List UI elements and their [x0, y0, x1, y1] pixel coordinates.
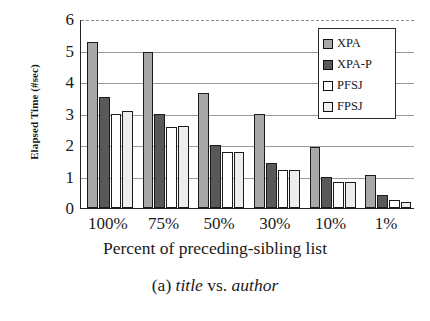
x-tick-label: 30% [247, 214, 303, 234]
caption-italic-title: title [176, 275, 203, 295]
bar [333, 182, 344, 208]
bar [210, 145, 221, 208]
bar [143, 52, 154, 208]
y-tick-label: 4 [48, 74, 74, 91]
x-tick-label: 10% [303, 214, 359, 234]
legend-item: XPA [323, 33, 395, 54]
caption-prefix: (a) [152, 275, 176, 295]
y-tick-label: 0 [48, 200, 74, 217]
bar-group [143, 20, 190, 208]
legend-swatch-icon [323, 39, 333, 49]
x-axis-tick-labels: 100%75%50%30%10%1% [80, 214, 414, 240]
legend-label: PFSJ [337, 79, 363, 92]
y-tick-label: 6 [48, 11, 74, 28]
x-tick-label: 75% [136, 214, 192, 234]
x-tick-label: 1% [358, 214, 414, 234]
bar [310, 147, 321, 208]
bar [278, 170, 289, 208]
bar [365, 175, 376, 208]
bar [321, 177, 332, 209]
bar [111, 114, 122, 209]
legend-label: FPSJ [337, 100, 363, 113]
bar [222, 152, 233, 208]
bar-group [87, 20, 134, 208]
legend-item: XPA-P [323, 54, 395, 75]
bar [266, 163, 277, 208]
y-axis-label: Elapsed Time (#sec) [28, 22, 40, 202]
legend-label: XPA-P [337, 58, 372, 71]
y-tick-label: 2 [48, 137, 74, 154]
legend-item: PFSJ [323, 75, 395, 96]
caption-italic-author: author [232, 275, 279, 295]
bar [87, 42, 98, 208]
bar-group [198, 20, 245, 208]
bar [377, 195, 388, 208]
figure-caption: (a) title vs. author [0, 275, 430, 296]
y-axis-tick-labels: 6543210 [44, 0, 74, 321]
legend-label: XPA [337, 37, 361, 50]
bar [154, 114, 165, 209]
x-tick-label: 100% [80, 214, 136, 234]
bar [166, 127, 177, 208]
bar [198, 93, 209, 208]
bar [289, 170, 300, 208]
bar-group [254, 20, 301, 208]
y-tick-label: 1 [48, 169, 74, 186]
legend-swatch-icon [323, 60, 333, 70]
bar [178, 126, 189, 208]
bar [99, 97, 110, 208]
bar [401, 202, 412, 208]
bar [254, 114, 265, 209]
bar [122, 111, 133, 208]
bar [389, 200, 400, 208]
x-tick-label: 50% [191, 214, 247, 234]
y-tick-label: 5 [48, 43, 74, 60]
legend: XPAXPA-PPFSJFPSJ [318, 28, 396, 119]
bar [234, 152, 245, 208]
x-axis-label: Percent of preceding-sibling list [0, 238, 430, 259]
legend-swatch-icon [323, 81, 333, 91]
bar [345, 182, 356, 208]
y-tick-label: 3 [48, 106, 74, 123]
legend-swatch-icon [323, 102, 333, 112]
caption-middle: vs. [203, 275, 232, 295]
figure-chart-title-vs-author: Elapsed Time (#sec) 6543210 100%75%50%30… [0, 0, 430, 321]
legend-item: FPSJ [323, 96, 395, 117]
